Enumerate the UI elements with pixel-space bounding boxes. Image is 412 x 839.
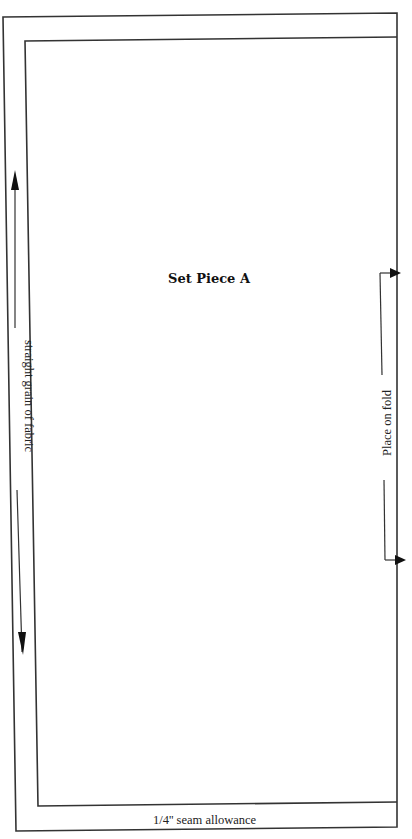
- seam-allowance-label: 1/4'' seam allowance: [153, 813, 256, 828]
- fold-label: Place on fold: [380, 390, 395, 456]
- pattern-drawing: [0, 0, 412, 839]
- inner-stitch-line: [25, 37, 397, 806]
- grain-label: straight grain of fabric: [21, 340, 36, 452]
- piece-title: Set Piece A: [168, 271, 250, 286]
- outer-cut-line: [3, 13, 397, 831]
